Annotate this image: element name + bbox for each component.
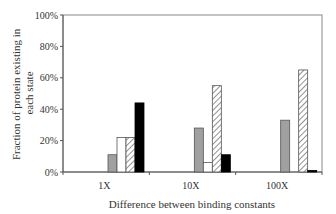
bar-black-1x [135,103,144,172]
bar-gray-1x [108,155,117,172]
bar-gray-10x [194,128,203,172]
bar-black-100x [308,170,317,172]
x-tick-label: 1X [98,180,111,191]
bar-hatched-100x [299,70,308,172]
bar-gray-100x [281,120,290,172]
y-tick-label: 20% [40,135,58,146]
bar-black-10x [221,155,230,172]
x-axis: 1X10X100X [63,172,322,191]
y-axis-title-line-2: each state [23,71,35,114]
x-axis-title: Difference between binding constants [109,198,275,210]
y-tick-label: 40% [40,104,58,115]
bar-chart: 0%20%40%60%80%100% 1X10X100X Difference … [0,0,336,214]
y-axis-title-line-1: Fraction of protein existing in [10,28,22,160]
y-tick-label: 100% [35,10,58,21]
bar-white-1x [117,137,126,172]
y-axis-title: Fraction of protein existing in each sta… [10,26,35,160]
y-tick-label: 0% [45,167,58,178]
y-tick-label: 80% [40,41,58,52]
bar-white-10x [203,163,212,172]
bar-hatched-10x [212,86,221,172]
y-axis: 0%20%40%60%80%100% [35,10,63,178]
bars [108,70,317,172]
bar-hatched-1x [126,137,135,172]
y-tick-label: 60% [40,72,58,83]
x-tick-label: 100X [266,180,289,191]
x-tick-label: 10X [182,180,200,191]
